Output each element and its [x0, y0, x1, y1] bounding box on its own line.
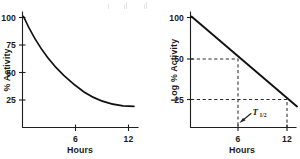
y-axis-title: Log % Activity: [169, 39, 179, 101]
x-axis-title: Hours: [229, 145, 255, 155]
quarter-guide: [191, 100, 287, 128]
half-life-guide: [191, 59, 238, 127]
y-tick-label-100: 100: [1, 13, 16, 23]
x-tick-label-12: 12: [124, 134, 134, 144]
log-decay-line: [192, 17, 298, 107]
axes-lines: [23, 12, 139, 128]
half-life-subscript: 1/2: [260, 112, 267, 118]
y-axis-title: % Activity: [2, 48, 12, 91]
x-axis-title: Hours: [67, 145, 93, 155]
linear-decay-panel: 100 75 50 25 6 12 Hours % Activity: [0, 0, 150, 159]
x-tick-label-6: 6: [236, 134, 241, 144]
y-tick-label-100: 100: [169, 13, 184, 23]
x-tick-label-12: 12: [282, 134, 292, 144]
half-life-arrow: [239, 114, 251, 124]
half-life-symbol: T: [253, 107, 259, 117]
decay-figure: 100 75 50 25 6 12 Hours % Activity: [0, 0, 300, 159]
x-tick-label-6: 6: [73, 134, 78, 144]
log-decay-panel: 100 50 25 6 12 Hours Log % Activity: [150, 0, 300, 159]
decay-curve: [24, 17, 135, 107]
y-tick-label-25: 25: [6, 95, 16, 105]
